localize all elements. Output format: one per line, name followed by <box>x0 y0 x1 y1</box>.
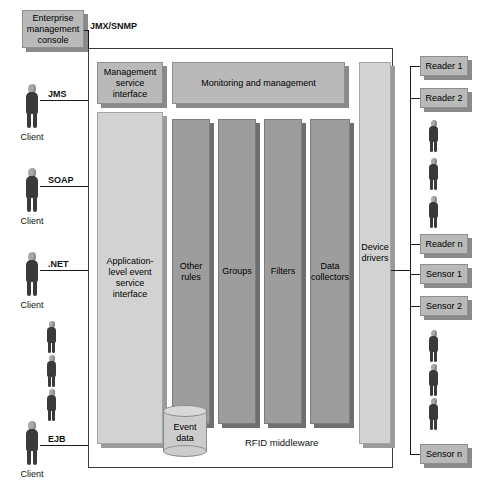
sensor-2-connector <box>410 306 420 307</box>
reader-n-box: Reader n <box>420 234 468 254</box>
event-data-store: Event data <box>163 405 207 457</box>
sensor-2-label: Sensor 2 <box>426 301 462 312</box>
reader-n-connector <box>410 244 420 245</box>
sensor-1-connector <box>410 274 420 275</box>
application-level-event-service-interface-panel: Application- level event service interfa… <box>97 112 163 444</box>
reader-1-box: Reader 1 <box>420 56 468 76</box>
reader-ellipsis-figure-1 <box>427 120 440 152</box>
sensor-n-label: Sensor n <box>426 449 462 460</box>
sensor-1-box: Sensor 1 <box>420 264 468 284</box>
sensor-ellipsis-figure-3 <box>427 398 440 430</box>
col3-line1: Filters <box>271 266 296 277</box>
col1-line2: rules <box>180 272 203 283</box>
col4-line1: Data <box>311 261 349 272</box>
protocol-label-dotnet: .NET <box>48 259 69 269</box>
rfid-middleware-caption: RFID middleware <box>245 437 318 448</box>
management-service-interface-box: Management service interface <box>97 62 163 104</box>
protocol-label-ejb: EJB <box>48 434 66 444</box>
client-connector-3 <box>40 270 88 271</box>
monitoring-label: Monitoring and management <box>201 78 316 89</box>
client-connector-2 <box>40 186 88 187</box>
client-label-3: Client <box>2 300 62 310</box>
console-label-line1: Enterprise <box>27 13 80 24</box>
alesi-line1: Application- <box>106 256 153 267</box>
sensor-n-connector <box>410 454 420 455</box>
client-connector-4 <box>40 445 88 446</box>
console-label-line3: console <box>27 35 80 46</box>
jmx-snmp-protocol-label: JMX/SNMP <box>90 21 137 31</box>
col1-line1: Other <box>180 261 203 272</box>
enterprise-management-console-box: Enterprise management console <box>22 10 84 48</box>
client-figure-3 <box>23 252 41 296</box>
client-ellipsis-figure-1 <box>45 321 58 353</box>
client-figure-1 <box>23 84 41 128</box>
reader-2-box: Reader 2 <box>420 88 468 108</box>
msi-line1: Management <box>104 67 157 78</box>
protocol-label-jms: JMS <box>48 89 67 99</box>
protocol-label-soap: SOAP <box>48 175 74 185</box>
msi-line2: service <box>104 78 157 89</box>
column-groups: Groups <box>218 119 256 424</box>
device-drivers-to-bus-connector <box>391 270 410 271</box>
reader-ellipsis-figure-2 <box>427 158 440 190</box>
alesi-line4: interface <box>106 289 153 300</box>
client-ellipsis-figure-3 <box>45 389 58 421</box>
alesi-line3: service <box>106 278 153 289</box>
column-filters: Filters <box>264 119 302 424</box>
sensor-1-label: Sensor 1 <box>426 269 462 280</box>
msi-line3: interface <box>104 89 157 100</box>
client-connector-1 <box>40 100 88 101</box>
sensor-ellipsis-figure-2 <box>427 364 440 396</box>
reader-2-connector <box>410 98 420 99</box>
device-drivers-panel: Device drivers <box>359 62 391 444</box>
alesi-line2: level event <box>106 267 153 278</box>
event-data-line2: data <box>173 433 196 444</box>
client-figure-4 <box>23 421 41 465</box>
sensor-n-box: Sensor n <box>420 444 468 464</box>
reader-ellipsis-figure-3 <box>427 196 440 228</box>
reader-1-label: Reader 1 <box>425 61 462 72</box>
console-label-line2: management <box>27 24 80 35</box>
column-other-rules: Other rules <box>172 119 210 424</box>
col2-line1: Groups <box>222 266 252 277</box>
monitoring-and-management-bar: Monitoring and management <box>172 62 345 104</box>
reader-n-label: Reader n <box>425 239 462 250</box>
device-drivers-line2: drivers <box>361 253 389 264</box>
device-bus-vertical-line <box>410 67 411 455</box>
reader-1-connector <box>410 66 420 67</box>
client-label-2: Client <box>2 216 62 226</box>
diagram-canvas: Enterprise management console JMX/SNMP C… <box>0 0 484 499</box>
client-figure-2 <box>23 168 41 212</box>
sensor-2-box: Sensor 2 <box>420 296 468 316</box>
reader-2-label: Reader 2 <box>425 93 462 104</box>
event-data-line1: Event <box>173 422 196 433</box>
client-label-4: Client <box>2 469 62 479</box>
column-data-collectors: Data collectors <box>310 119 350 424</box>
sensor-ellipsis-figure-1 <box>427 330 440 362</box>
device-drivers-line1: Device <box>361 242 389 253</box>
client-ellipsis-figure-2 <box>45 355 58 387</box>
client-label-1: Client <box>2 132 62 142</box>
col4-line2: collectors <box>311 272 349 283</box>
